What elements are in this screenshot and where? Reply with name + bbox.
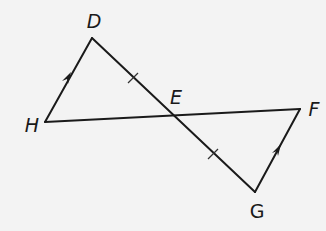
label-e: E <box>170 86 182 108</box>
label-g: G <box>250 200 265 222</box>
label-f: F <box>309 98 321 120</box>
label-h: H <box>25 114 39 136</box>
segment-hf <box>45 109 300 122</box>
geometry-diagram: D E F G H <box>0 0 326 231</box>
label-d: D <box>87 10 102 32</box>
tick-mark-eg <box>208 149 218 159</box>
